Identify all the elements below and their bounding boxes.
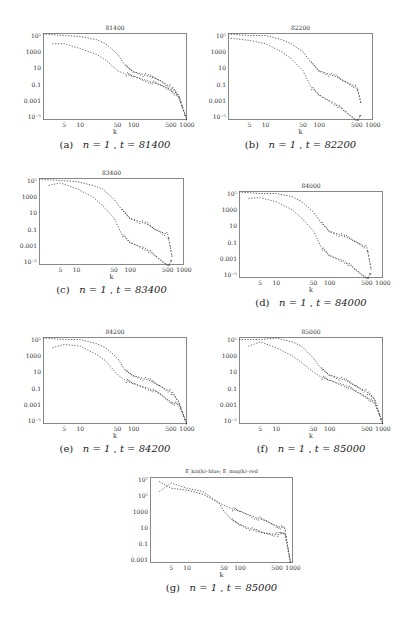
x-tick-label: 500 (271, 564, 282, 571)
y-tick-label: 0.1 (3, 81, 41, 88)
y-tick-label: 10⁵ (3, 336, 41, 343)
x-tick-label: 50 (310, 279, 318, 286)
y-tick-label: 1000 (110, 508, 148, 515)
y-tick-label: 10⁻⁵ (199, 417, 237, 424)
caption-t: t = 85000 (315, 443, 366, 454)
caption-n: n = 1 (190, 582, 218, 593)
x-tick-label: 500 (165, 121, 176, 128)
y-tick-label: 0.1 (199, 385, 237, 392)
x-tick-label: 50 (110, 266, 118, 273)
x-tick-label: 50 (114, 121, 122, 128)
x-tick-label: 5 (58, 266, 62, 273)
x-axis-label: k (113, 128, 117, 136)
plot-area (228, 33, 373, 120)
y-tick-label: 0.1 (0, 226, 37, 233)
y-tick-label: 10 (199, 222, 237, 229)
caption-n: n = 1 (278, 443, 306, 454)
plot-area (43, 337, 187, 424)
y-tick-label: 10 (3, 64, 41, 71)
y-tick-label: 10⁷ (110, 476, 148, 483)
y-tick-label: 0.001 (3, 401, 41, 408)
caption-label: (d) (255, 297, 269, 308)
y-tick-label: 1000 (188, 48, 226, 55)
plot-area (43, 33, 187, 120)
series-line (49, 183, 173, 265)
y-tick-label: 1000 (3, 352, 41, 359)
y-tick-label: 0.1 (188, 81, 226, 88)
y-tick-label: 10⁵ (0, 177, 37, 184)
x-tick-label: 500 (162, 266, 173, 273)
y-tick-label: 10⁵ (110, 492, 148, 499)
x-tick-label: 10 (183, 564, 191, 571)
x-tick-label: 500 (361, 425, 372, 432)
y-tick-label: 10 (188, 64, 226, 71)
x-tick-label: 100 (324, 425, 335, 432)
data-series (239, 191, 383, 278)
x-tick-label: 100 (128, 121, 139, 128)
chart-title: 81400 (43, 24, 187, 31)
series-line (239, 338, 383, 424)
x-tick-label: 500 (165, 425, 176, 432)
x-tick-label: 1000 (176, 266, 191, 273)
series-line (39, 179, 172, 257)
y-tick-label: 0.001 (188, 97, 226, 104)
plot-area (239, 191, 383, 278)
caption-label: (e) (60, 443, 74, 454)
y-tick-label: 10⁻⁵ (199, 271, 237, 278)
x-tick-label: 100 (234, 564, 245, 571)
x-tick-label: 500 (361, 279, 372, 286)
chart-title: 84000 (239, 182, 383, 189)
caption-n: n = 1 (279, 297, 307, 308)
x-tick-label: 50 (310, 425, 318, 432)
chart-title: 84200 (43, 328, 187, 335)
series-line (248, 198, 371, 278)
caption-n: n = 1 (269, 139, 297, 150)
x-tick-label: 500 (351, 121, 362, 128)
y-tick-label: 0.001 (0, 242, 37, 249)
caption-label: (b) (245, 139, 259, 150)
y-tick-label: 10⁻⁵ (188, 113, 226, 120)
y-tick-label: 10⁻⁵ (3, 417, 41, 424)
series-line (228, 34, 361, 104)
x-axis-label: k (110, 273, 114, 281)
caption-t: t = 83400 (116, 284, 167, 295)
series-line (52, 344, 187, 424)
x-tick-label: 5 (247, 121, 251, 128)
x-tick-label: 10 (76, 121, 84, 128)
y-tick-label: 0.001 (199, 401, 237, 408)
series-line (52, 44, 187, 120)
x-tick-label: 5 (169, 564, 173, 571)
caption-n: n = 1 (79, 284, 107, 295)
y-tick-label: 10 (3, 368, 41, 375)
series-line (159, 483, 290, 563)
data-series (39, 178, 184, 265)
y-tick-label: 10⁵ (199, 336, 237, 343)
y-tick-label: 10⁵ (188, 32, 226, 39)
x-tick-label: 100 (125, 266, 136, 273)
x-tick-label: 1000 (365, 121, 380, 128)
x-tick-label: 5 (258, 425, 262, 432)
x-tick-label: 100 (324, 279, 335, 286)
y-tick-label: 0.1 (3, 385, 41, 392)
x-axis-label: k (220, 571, 224, 579)
y-tick-label: 0.001 (199, 255, 237, 262)
x-tick-label: 10 (76, 425, 84, 432)
caption-t: t = 85000 (227, 582, 278, 593)
figure-caption: (d) n = 1 , t = 84000 (255, 297, 366, 308)
x-tick-label: 1000 (375, 425, 390, 432)
x-tick-label: 1000 (179, 121, 194, 128)
x-tick-label: 10 (272, 279, 280, 286)
plot-area (150, 477, 293, 563)
series-line (159, 482, 290, 564)
y-tick-label: 0.1 (199, 239, 237, 246)
series-line (43, 338, 187, 424)
x-tick-label: 5 (258, 279, 262, 286)
figure-caption: (c) n = 1 , t = 83400 (56, 284, 167, 295)
series-line (248, 342, 383, 424)
x-axis-label: k (309, 432, 313, 440)
y-tick-label: 10 (199, 368, 237, 375)
caption-t: t = 84200 (120, 443, 171, 454)
caption-label: (g) (166, 582, 180, 593)
chart-title: 85000 (239, 328, 383, 335)
x-axis-label: k (299, 128, 303, 136)
